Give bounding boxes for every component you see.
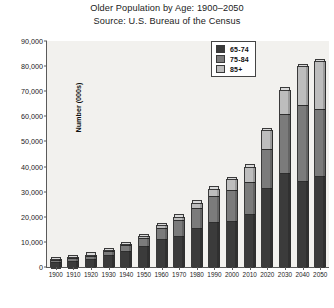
x-axis-tick-mark xyxy=(250,267,251,270)
bar-segment-65-74 xyxy=(280,174,290,268)
bar-top-cap xyxy=(192,200,202,203)
bar-top-cap xyxy=(298,64,308,67)
stacked-bar xyxy=(226,179,238,267)
x-axis-tick-mark xyxy=(73,267,74,270)
x-axis-tick-mark xyxy=(303,267,304,270)
bar-top-cap xyxy=(174,214,184,217)
bar-segment-85plus xyxy=(315,62,325,109)
stacked-bar xyxy=(67,257,79,267)
bar-segment-75-84 xyxy=(298,106,308,182)
legend-label: 85+ xyxy=(230,66,242,73)
legend-swatch xyxy=(216,55,225,63)
x-axis-tick-mark xyxy=(320,267,321,270)
stacked-bar xyxy=(50,259,62,267)
x-axis-tick-mark xyxy=(162,267,163,270)
x-axis-tick-mark xyxy=(56,267,57,270)
y-axis-tick-label: 80,000 xyxy=(21,62,43,71)
bar-segment-75-84 xyxy=(192,209,202,228)
chart-titles: Older Population by Age: 1900–2050 Sourc… xyxy=(0,2,334,27)
bar-top-cap xyxy=(227,177,237,180)
plot-area: Number (000s) 90,00080,00070,00060,00050… xyxy=(46,41,329,268)
y-axis-tick-label: 10,000 xyxy=(21,237,43,246)
bar-segment-65-74 xyxy=(157,240,167,268)
bar-top-cap xyxy=(280,87,290,90)
x-axis-tick-mark xyxy=(109,267,110,270)
bar-segment-75-84 xyxy=(315,110,325,177)
bar-top-cap xyxy=(245,164,255,167)
x-axis-tick-mark xyxy=(179,267,180,270)
x-axis-tick-mark xyxy=(91,267,92,270)
bar-segment-85plus xyxy=(209,190,219,198)
legend-item: 85+ xyxy=(216,65,249,73)
bar-top-cap xyxy=(121,242,131,245)
stacked-bar xyxy=(120,244,132,267)
stacked-bar xyxy=(103,250,115,267)
bar-top-cap xyxy=(86,252,96,255)
stacked-bar xyxy=(85,255,97,267)
bar-top-cap xyxy=(139,234,149,237)
bar-segment-65-74 xyxy=(315,177,325,268)
chart-subtitle: Source: U.S. Bureau of the Census xyxy=(0,15,334,28)
stacked-bar xyxy=(297,66,309,267)
stacked-bar xyxy=(208,189,220,267)
bar-segment-75-84 xyxy=(174,221,184,236)
bar-top-cap xyxy=(315,59,325,62)
bar-segment-65-74 xyxy=(192,229,202,268)
chart-container: Older Population by Age: 1900–2050 Sourc… xyxy=(0,0,334,308)
bar-top-cap xyxy=(68,255,78,258)
y-axis-tick-label: 0 xyxy=(39,263,43,272)
x-axis-tick-mark xyxy=(126,267,127,270)
bar-top-cap xyxy=(51,257,61,260)
y-axis-tick-label: 60,000 xyxy=(21,112,43,121)
bar-top-cap xyxy=(209,186,219,189)
bar-segment-65-74 xyxy=(245,215,255,268)
legend-swatch xyxy=(216,65,225,73)
legend-item: 65-74 xyxy=(216,45,249,53)
bar-segment-75-84 xyxy=(227,191,237,222)
y-axis-tick-label: 40,000 xyxy=(21,162,43,171)
bar-segment-75-84 xyxy=(280,115,290,174)
stacked-bar xyxy=(244,167,256,267)
bar-series-group xyxy=(47,41,329,267)
bar-segment-85plus xyxy=(227,180,237,191)
y-axis-tick-label: 90,000 xyxy=(21,37,43,46)
bar-segment-65-74 xyxy=(298,182,308,268)
bar-segment-75-84 xyxy=(245,183,255,215)
y-axis-tick-label: 30,000 xyxy=(21,187,43,196)
y-axis-tick-label: 20,000 xyxy=(21,212,43,221)
bar-segment-85plus xyxy=(262,131,272,149)
bar-segment-75-84 xyxy=(139,239,149,247)
chart-title: Older Population by Age: 1900–2050 xyxy=(0,2,334,15)
bar-segment-65-74 xyxy=(121,252,131,268)
bar-segment-65-74 xyxy=(262,189,272,268)
bar-segment-75-84 xyxy=(262,150,272,190)
bar-segment-65-74 xyxy=(209,223,219,268)
stacked-bar xyxy=(279,90,291,267)
x-axis-tick-mark xyxy=(285,267,286,270)
bar-segment-85plus xyxy=(280,91,290,115)
stacked-bar xyxy=(191,203,203,267)
x-axis-tick-mark xyxy=(197,267,198,270)
bar-top-cap xyxy=(262,128,272,131)
chart-legend: 65-7475-8485+ xyxy=(211,41,256,77)
legend-swatch xyxy=(216,45,225,53)
bar-segment-65-74 xyxy=(227,222,237,268)
bar-segment-65-74 xyxy=(174,237,184,268)
bar-segment-65-74 xyxy=(139,247,149,268)
stacked-bar xyxy=(314,61,326,267)
stacked-bar xyxy=(156,225,168,267)
x-axis-tick-mark xyxy=(214,267,215,270)
bar-segment-75-84 xyxy=(157,229,167,241)
bar-top-cap xyxy=(104,248,114,251)
y-axis-tick-label: 50,000 xyxy=(21,137,43,146)
bar-segment-85plus xyxy=(298,67,308,106)
legend-item: 75-84 xyxy=(216,55,249,63)
bar-top-cap xyxy=(157,223,167,226)
x-axis-tick-mark xyxy=(232,267,233,270)
x-axis-tick-mark xyxy=(144,267,145,270)
x-axis-tick-label: 2050 xyxy=(308,271,332,278)
x-axis-tick-mark xyxy=(267,267,268,270)
stacked-bar xyxy=(261,130,273,267)
y-axis-tick-label: 70,000 xyxy=(21,87,43,96)
legend-label: 75-84 xyxy=(230,56,249,63)
